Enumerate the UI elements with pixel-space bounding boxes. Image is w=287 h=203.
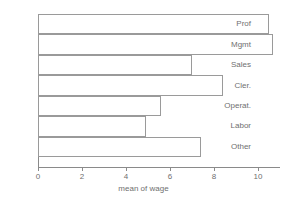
x-axis-line <box>38 167 280 168</box>
category-label-cler: Cler. <box>235 81 251 90</box>
category-label-labor: Labor <box>231 121 251 130</box>
bar-operat <box>38 96 161 116</box>
bar-sales <box>38 55 192 75</box>
category-label-prof: Prof <box>236 19 251 28</box>
category-label-operat: Operat. <box>224 101 251 110</box>
x-tick-label-4: 4 <box>124 172 128 182</box>
bar-prof <box>38 14 269 34</box>
category-label-sales: Sales <box>231 60 251 69</box>
bar-other <box>38 137 201 157</box>
x-tick-10 <box>258 167 259 171</box>
category-label-mgmt: Mgmt <box>231 40 251 49</box>
bar-chart: ProfMgmtSalesCler.Operat.LaborOther 0246… <box>0 0 287 203</box>
x-tick-2 <box>82 167 83 171</box>
x-tick-label-2: 2 <box>80 172 84 182</box>
x-axis-title: mean of wage <box>0 184 287 194</box>
category-label-other: Other <box>231 142 251 151</box>
x-tick-6 <box>170 167 171 171</box>
bar-cler <box>38 75 223 95</box>
x-tick-8 <box>214 167 215 171</box>
x-tick-0 <box>38 167 39 171</box>
x-tick-label-6: 6 <box>168 172 172 182</box>
plot-area: ProfMgmtSalesCler.Operat.LaborOther 0246… <box>0 0 287 203</box>
bar-labor <box>38 116 146 136</box>
x-tick-4 <box>126 167 127 171</box>
x-tick-label-10: 10 <box>254 172 263 182</box>
x-tick-label-8: 8 <box>212 172 216 182</box>
x-tick-label-0: 0 <box>36 172 40 182</box>
